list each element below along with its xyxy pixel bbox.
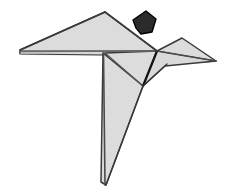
paper-panels [20,12,216,185]
pointer-cursor-shape[interactable] [133,11,156,34]
origami-bird-illustration [0,0,229,195]
origami-figure-canvas [0,0,229,195]
pointer-cursor[interactable] [133,11,156,34]
fold-wing-spine-line [20,51,157,52]
